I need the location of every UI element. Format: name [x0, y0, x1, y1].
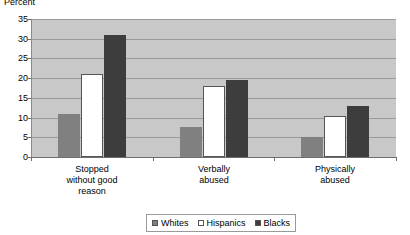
legend-label: Hispanics [207, 219, 246, 228]
category-tick [274, 157, 275, 161]
legend-item-whites[interactable]: Whites [152, 219, 189, 228]
legend-swatch-icon [255, 220, 261, 226]
y-tick-label: 0 [2, 153, 28, 162]
category-tick [153, 157, 154, 161]
y-tick-label: 5 [2, 133, 28, 142]
legend-swatch-icon [198, 220, 204, 226]
bar-chart: Percent 35302520151050 Stoppedwithout go… [0, 0, 410, 235]
category-label-2: Physicallyabused [274, 164, 396, 186]
category-label-line: abused [274, 175, 396, 186]
bars-layer [31, 19, 396, 157]
category-label-line: Verbally [153, 164, 275, 175]
category-tick [31, 157, 32, 161]
category-label-line: reason [31, 186, 153, 197]
y-tick-label: 30 [2, 35, 28, 44]
bar-blacks-0 [104, 35, 126, 157]
bar-whites-2 [301, 137, 323, 157]
chart-legend: WhitesHispanicsBlacks [146, 214, 296, 232]
bar-whites-1 [180, 127, 202, 157]
category-label-line: without good [31, 175, 153, 186]
bar-hispanics-1 [203, 86, 225, 157]
bar-whites-0 [58, 114, 80, 157]
y-axis-title: Percent [4, 0, 35, 8]
y-tick-label: 25 [2, 54, 28, 63]
bar-hispanics-2 [324, 116, 346, 157]
y-tick-label: 35 [2, 15, 28, 24]
category-label-line: Stopped [31, 164, 153, 175]
x-axis-line [31, 157, 396, 158]
category-label-0: Stoppedwithout goodreason [31, 164, 153, 197]
y-tick-label: 10 [2, 114, 28, 123]
category-label-line: Physically [274, 164, 396, 175]
y-tick-label: 15 [2, 94, 28, 103]
category-tick [396, 157, 397, 161]
legend-swatch-icon [152, 220, 158, 226]
bar-blacks-1 [226, 80, 248, 157]
bar-blacks-2 [347, 106, 369, 157]
bar-hispanics-0 [81, 74, 103, 157]
legend-label: Blacks [264, 219, 291, 228]
legend-item-hispanics[interactable]: Hispanics [198, 219, 246, 228]
legend-item-blacks[interactable]: Blacks [255, 219, 291, 228]
legend-label: Whites [161, 219, 189, 228]
category-label-1: Verballyabused [153, 164, 275, 186]
y-tick-label: 20 [2, 74, 28, 83]
y-axis-ticks: 35302520151050 [0, 19, 28, 157]
category-label-line: abused [153, 175, 275, 186]
